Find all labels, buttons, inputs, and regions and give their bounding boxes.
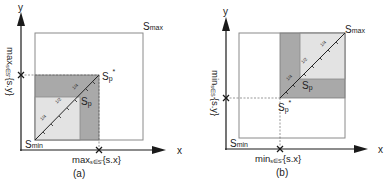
y-axis-arrow-icon	[17, 12, 25, 26]
x-axis-label: x	[177, 145, 182, 156]
panel-caption: (a)	[73, 168, 85, 179]
y-axis-arrow-icon	[222, 17, 230, 31]
smax-label: Smax	[143, 21, 163, 32]
panel-b: 1/4 1/2 1/4 y x Smax Smin Sp Sp* mins∈S'…	[210, 6, 383, 178]
x-axis-label: x	[378, 144, 383, 155]
y-marker-label: maxs∈S'{s.y}	[5, 47, 16, 96]
figure: 1/4 1/2 1/4 y x Smax Smin Sp Sp* maxs∈S'…	[0, 0, 385, 183]
smin-label: Smin	[25, 139, 43, 150]
smin-label: Smin	[230, 138, 248, 149]
sp-star-label: Sp*	[278, 99, 292, 114]
y-axis-label: y	[223, 6, 228, 17]
sp-star-label: Sp*	[102, 68, 116, 83]
y-marker-label: mins∈S'{s.y}	[210, 70, 221, 116]
y-axis-label: y	[18, 2, 23, 13]
x-axis-arrow-icon	[152, 146, 166, 154]
panel-a: 1/4 1/2 1/4 y x Smax Smin Sp Sp* maxs∈S'…	[5, 2, 182, 179]
x-axis-arrow-icon	[354, 145, 368, 153]
x-marker-label: mins∈S'{s.x}	[255, 153, 301, 164]
x-marker-label: maxs∈S'{s.x}	[72, 154, 121, 165]
panel-caption: (b)	[276, 167, 288, 178]
smax-label: Smax	[345, 24, 365, 35]
